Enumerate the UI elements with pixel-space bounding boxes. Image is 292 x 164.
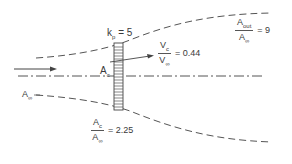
a-inf-label: A∞	[22, 90, 32, 101]
actuator-disk	[114, 43, 123, 110]
aout-ainf-ratio: Aout A∞ = 9	[235, 17, 270, 44]
kp-label: kp = 5	[107, 28, 132, 40]
ac-label: Ac	[100, 66, 110, 78]
flow-arrow	[14, 67, 57, 72]
streamtube-lower	[36, 95, 272, 142]
vc-vinf-ratio: Vc V∞ = 0.44	[158, 40, 200, 67]
ac-ainf-ratio: Ac A∞ = 2.25	[91, 117, 133, 144]
